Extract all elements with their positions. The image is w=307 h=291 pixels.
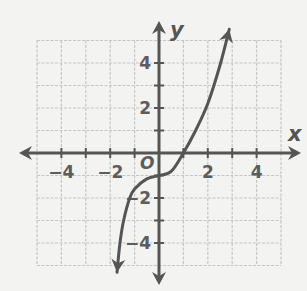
x-tick-label: −4 (48, 162, 74, 182)
y-tick-label: 4 (139, 53, 151, 73)
y-tick-label: −4 (125, 233, 151, 253)
x-tick-label: 2 (202, 162, 214, 182)
x-tick-label: 4 (251, 162, 263, 182)
y-axis-label: y (170, 18, 185, 42)
x-tick-label: −2 (97, 162, 123, 182)
function-graph: −4−22442−2−4 x y O (0, 0, 307, 291)
origin-label: O (140, 153, 154, 173)
y-tick-label: 2 (139, 98, 151, 118)
x-axis-label: x (287, 122, 303, 146)
